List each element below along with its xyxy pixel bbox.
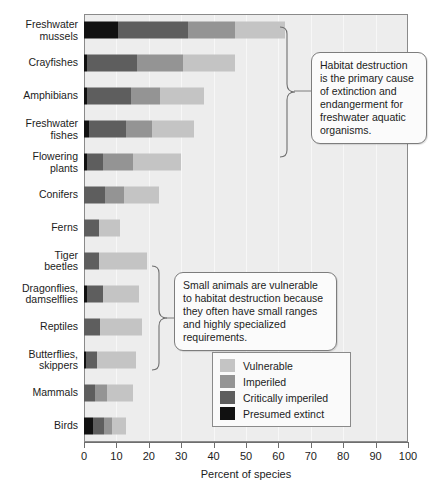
stacked-bar [84,121,194,138]
x-tick-label: 40 [207,450,219,462]
chart-row: Conifers [84,179,408,212]
bar-segment [105,187,124,204]
category-label: Amphibians [0,91,78,103]
legend-swatch [220,407,235,420]
x-tick-label: 70 [305,450,317,462]
category-label: Mammals [0,387,78,399]
category-label: Freshwater fishes [0,118,78,141]
bar-segment [160,88,204,105]
x-tick [376,442,377,448]
category-label: Birds [0,420,78,432]
x-tick-label: 10 [110,450,122,462]
legend-swatch [220,391,235,404]
stacked-bar [84,351,136,368]
x-tick [116,442,117,448]
chart-row: Freshwater mussels [84,14,408,47]
x-axis-title: Percent of species [84,468,408,480]
stacked-bar [84,22,285,39]
stacked-bar [84,219,120,236]
legend-item: Presumed extinct [220,407,343,420]
x-tick [84,442,85,448]
bar-segment [99,252,148,269]
legend-swatch [220,359,235,372]
bar-segment [86,351,97,368]
x-tick-label: 90 [369,450,381,462]
x-tick-label: 50 [240,450,252,462]
bar-segment [87,88,131,105]
bar-segment [97,351,136,368]
bar-segment [87,55,137,72]
bar-segment [152,121,194,138]
bar-segment [99,219,120,236]
legend-label: Presumed extinct [243,408,324,420]
bar-segment [84,252,99,269]
callout-bottom-text: Small animals are vulnerable to habitat … [183,279,323,343]
x-tick-label: 20 [143,450,155,462]
x-tick [278,442,279,448]
stacked-bar [84,252,147,269]
bar-segment [84,219,99,236]
x-tick [181,442,182,448]
stacked-bar [84,318,142,335]
bar-segment [93,417,104,434]
x-tick-label: 0 [81,450,87,462]
bar-segment [87,285,104,302]
category-label: Flowering plants [0,151,78,174]
bar-segment [126,121,152,138]
category-label: Dragonflies, damselflies [0,282,78,305]
stacked-bar [84,55,235,72]
bar-segment [124,187,158,204]
callout-habitat-destruction: Habitat destruction is the primary cause… [311,52,427,144]
legend-item: Vulnerable [220,359,343,372]
legend-item: Critically imperiled [220,391,343,404]
bar-segment [137,55,182,72]
category-label: Ferns [0,222,78,234]
legend-label: Vulnerable [243,360,293,372]
callout-small-animals: Small animals are vulnerable to habitat … [174,272,337,351]
stacked-bar [84,417,126,434]
stacked-bar [84,187,159,204]
x-tick-label: 60 [272,450,284,462]
bar-segment [84,187,105,204]
chart-row: Ferns [84,212,408,245]
bar-segment [104,417,112,434]
x-tick-label: 30 [175,450,187,462]
legend: VulnerableImperiledCritically imperiledP… [212,352,351,427]
x-tick [214,442,215,448]
bar-segment [112,417,126,434]
category-label: Freshwater mussels [0,19,78,42]
callout-top-text: Habitat destruction is the primary cause… [320,59,414,136]
bar-segment [183,55,235,72]
bar-segment [118,22,188,39]
bar-segment [84,22,118,39]
chart-row: Flowering plants [84,146,408,179]
bar-segment [84,384,95,401]
stacked-bar [84,384,133,401]
x-tick [343,442,344,448]
bar-segment [103,154,132,171]
category-label: Crayfishes [0,58,78,70]
legend-item: Imperiled [220,375,343,388]
category-label: Reptiles [0,321,78,333]
bar-segment [131,88,160,105]
category-label: Conifers [0,189,78,201]
x-tick [311,442,312,448]
x-tick [149,442,150,448]
category-label: Tiger beetles [0,249,78,272]
bar-segment [188,22,235,39]
bar-segment [87,154,104,171]
stacked-bar [84,88,204,105]
bar-segment [84,318,100,335]
x-tick-label: 100 [399,450,417,462]
bar-segment [89,121,126,138]
x-tick [246,442,247,448]
bar-segment [133,154,182,171]
legend-label: Critically imperiled [243,392,328,404]
bar-segment [103,285,139,302]
stacked-bar [84,154,181,171]
category-label: Butterflies, skippers [0,348,78,371]
x-tick-label: 80 [337,450,349,462]
bar-segment [107,384,133,401]
stacked-bar [84,285,139,302]
bar-segment [100,318,142,335]
